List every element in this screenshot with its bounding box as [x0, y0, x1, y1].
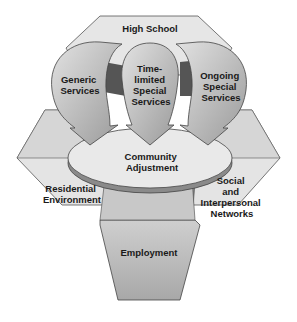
- generic-services-label: Generic Services: [60, 74, 99, 96]
- transition-diagram: High School Generic Services Time- limit…: [0, 0, 297, 322]
- employment-label: Employment: [120, 247, 178, 258]
- residential-environment-label: Residential Environment: [43, 183, 102, 205]
- time-limited-services-label: Time- limited Special Services: [131, 63, 170, 107]
- high-school-label: High School: [122, 23, 177, 34]
- employment-block: [100, 178, 200, 300]
- community-adjustment-label: Community Adjustment: [125, 151, 180, 173]
- ongoing-services-label: Ongoing Special Services: [200, 70, 242, 103]
